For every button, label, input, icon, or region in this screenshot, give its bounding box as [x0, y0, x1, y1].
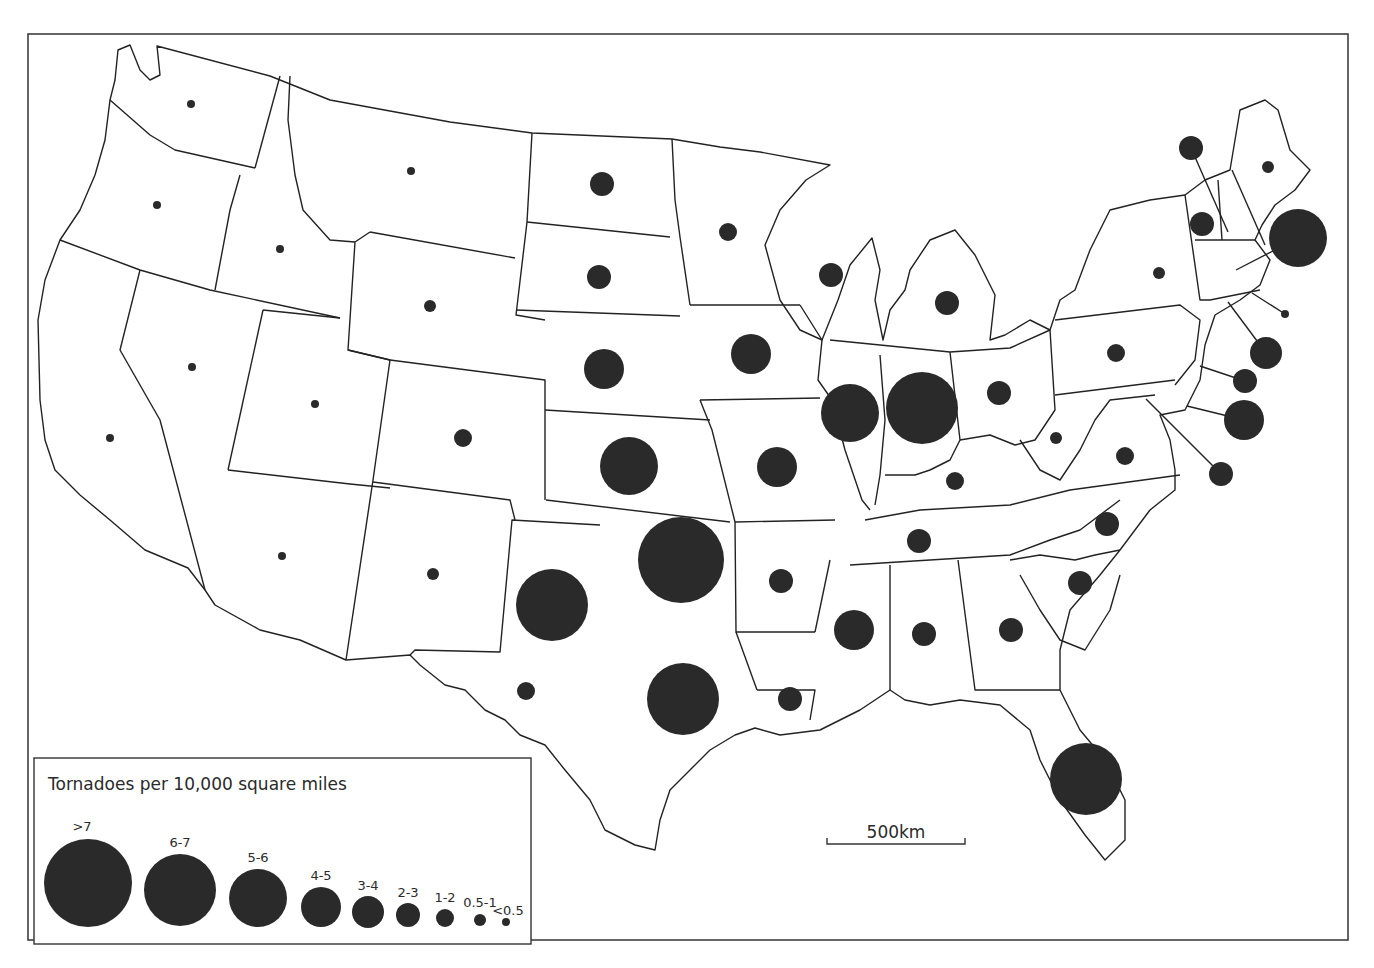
state-symbol: IN: 6-7	[886, 372, 958, 444]
state-symbol: WY: 0.5-1	[424, 300, 436, 312]
state-symbol: NM: 0.5-1	[427, 568, 439, 580]
state-symbol: AZ: <0.5	[278, 552, 286, 560]
legend-symbol	[229, 869, 287, 927]
state-symbol: UT: <0.5	[311, 400, 319, 408]
legend-symbol	[301, 887, 341, 927]
state-symbol: CA: <0.5	[106, 434, 114, 442]
legend-title: Tornadoes per 10,000 square miles	[47, 774, 347, 794]
legend-label: 3-4	[357, 878, 378, 893]
legend-label: 4-5	[310, 868, 331, 883]
legend-symbol	[474, 914, 486, 926]
legend-symbol	[44, 839, 132, 927]
legend-label: >7	[72, 819, 91, 834]
legend-symbol	[144, 854, 216, 926]
state-symbol: IA: 4-5	[731, 334, 771, 374]
state-symbol: DE: 4-5	[1224, 400, 1264, 440]
state-symbol: LA: 2-3	[778, 687, 802, 711]
state-symbol: ID: <0.5	[276, 245, 284, 253]
state-symbol: NJ: 2-3	[1233, 369, 1257, 393]
state-symbol: WI: 2-3	[819, 263, 843, 287]
state-symbol: MS: 4-5	[834, 610, 874, 650]
state-symbol: TN: 2-3	[907, 529, 931, 553]
state-symbol: NH: 2-3	[1179, 136, 1203, 160]
legend-label: 6-7	[169, 835, 190, 850]
state-symbol: ME: 0.5-1	[1262, 161, 1274, 173]
state-symbol: NV: <0.5	[188, 363, 196, 371]
state-symbol: PA: 1-2	[1107, 344, 1125, 362]
state-symbol: TX (west): 1-2	[517, 682, 535, 700]
tornado-map: WA: <0.5OR: <0.5CA: <0.5ID: <0.5NV: <0.5…	[0, 0, 1374, 968]
legend-label: 1-2	[434, 890, 455, 905]
legend-label: 2-3	[397, 885, 418, 900]
state-symbol: KY: 1-2	[946, 472, 964, 490]
state-symbol: NE: 4-5	[584, 349, 624, 389]
state-symbol: MD: 2-3	[1209, 462, 1233, 486]
legend-label: <0.5	[492, 903, 524, 918]
state-symbol: MA: 5-6	[1269, 209, 1327, 267]
state-symbol: TX (panhandle): 6-7	[516, 569, 588, 641]
state-symbol: CT: 3-4	[1250, 337, 1282, 369]
legend-symbol	[436, 909, 454, 927]
state-symbol: OR: <0.5	[153, 201, 161, 209]
state-symbol: WV: 0.5-1	[1050, 432, 1062, 444]
state-symbol: SC: 2-3	[1068, 571, 1092, 595]
legend-symbol	[352, 896, 384, 928]
scale-bar-label: 500km	[867, 822, 926, 842]
state-symbol: NY: 0.5-1	[1153, 267, 1165, 279]
state-symbol: MN: 1-2	[719, 223, 737, 241]
state-symbol: KS: 5-6	[600, 437, 658, 495]
state-symbol: WA: <0.5	[187, 100, 195, 108]
state-symbol: FL: 6-7	[1050, 743, 1122, 815]
state-symbol: CO: 1-2	[454, 429, 472, 447]
state-symbol: GA: 2-3	[999, 618, 1023, 642]
state-symbol: AR: 2-3	[769, 569, 793, 593]
state-symbol: TX (east): 6-7	[647, 663, 719, 735]
state-symbol: ND: 2-3	[590, 172, 614, 196]
state-symbol: MO: 4-5	[757, 447, 797, 487]
legend-symbol	[396, 903, 420, 927]
legend-label: 5-6	[247, 850, 268, 865]
state-symbol: NC: 2-3	[1095, 512, 1119, 536]
state-symbol: AL: 2-3	[912, 622, 936, 646]
state-symbol: MI: 2-3	[935, 291, 959, 315]
state-symbol: OK: >7	[638, 517, 724, 603]
state-symbol: SD: 2-3	[587, 265, 611, 289]
legend-symbol	[502, 918, 510, 926]
state-symbol: OH: 2-3	[987, 381, 1011, 405]
state-symbol: VT: 2-3	[1190, 212, 1214, 236]
state-symbol: VA: 1-2	[1116, 447, 1134, 465]
state-symbol: IL: 5-6	[821, 384, 879, 442]
state-symbol: MT: <0.5	[407, 167, 415, 175]
state-symbol: RI: <0.5	[1281, 310, 1289, 318]
